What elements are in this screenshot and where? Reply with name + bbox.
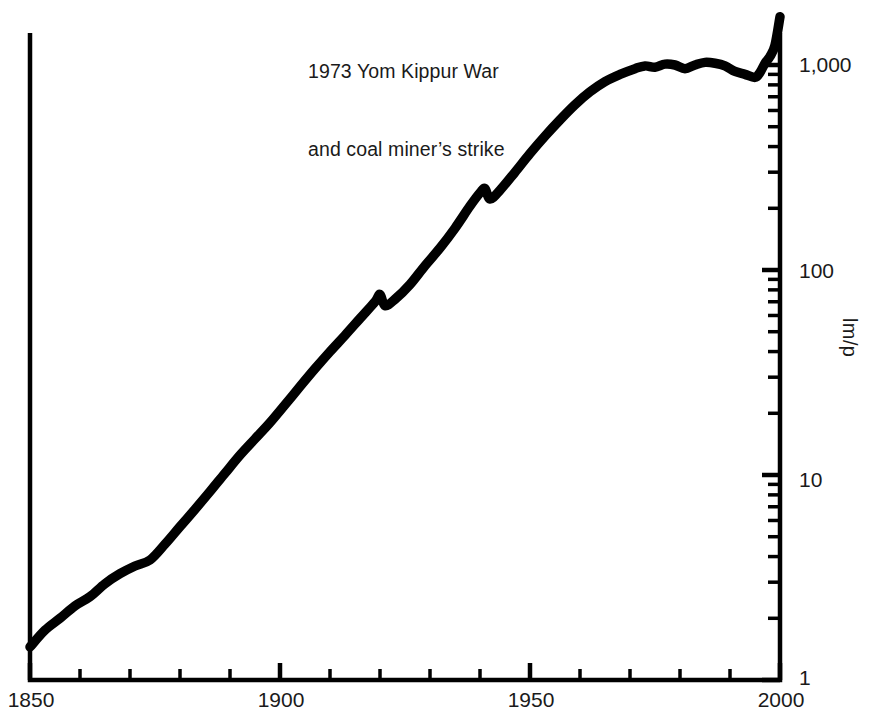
x-tick-label-1950: 1950 (508, 688, 555, 712)
x-tick-label-1900: 1900 (258, 688, 305, 712)
y-tick-label-10: 10 (799, 468, 822, 492)
annotation-yom-kippur: 1973 Yom Kippur War and coal miner’s str… (308, 8, 505, 214)
x-tick-label-2000: 2000 (758, 688, 805, 712)
y-tick-label-1000: 1,000 (799, 53, 852, 77)
chart-figure: 1973 Yom Kippur War and coal miner’s str… (0, 0, 892, 725)
y-axis-title: lm/p (838, 318, 861, 357)
y-tick-label-1: 1 (799, 666, 811, 690)
x-tick-label-1850: 1850 (8, 688, 55, 712)
annotation-line-2: and coal miner’s strike (308, 137, 505, 163)
y-tick-label-100: 100 (799, 259, 834, 283)
annotation-line-1: 1973 Yom Kippur War (308, 59, 505, 85)
